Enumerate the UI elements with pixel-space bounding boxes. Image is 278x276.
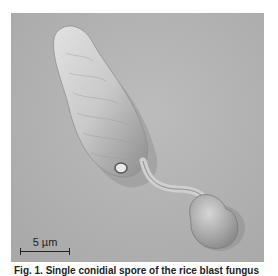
- scale-bar-tick-left: [20, 248, 21, 255]
- scale-bar-line: [20, 251, 70, 252]
- figure-caption: Fig. 1. Single conidial spore of the ric…: [14, 265, 259, 276]
- scale-bar: 5 µm: [20, 239, 70, 251]
- sem-micrograph: 5 µm: [11, 13, 264, 262]
- scale-bar-label: 5 µm: [20, 236, 70, 248]
- spore-illustration: [11, 13, 264, 262]
- scale-bar-tick-right: [69, 248, 70, 255]
